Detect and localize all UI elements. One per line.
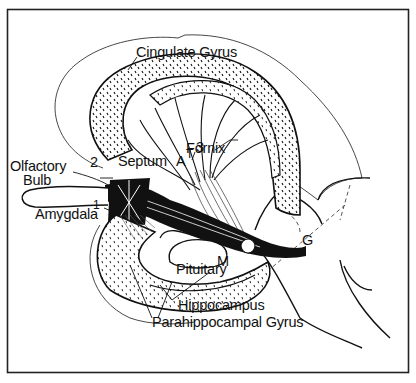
septum-label: Septum	[118, 154, 167, 169]
mammillary-body	[241, 239, 255, 253]
marker-A: A	[176, 154, 185, 169]
hippocampus-label: Hippocampus	[178, 298, 264, 313]
marker-M: M	[217, 254, 229, 269]
marker-3: 3	[196, 140, 204, 155]
marker-T: T	[186, 148, 193, 160]
marker-G: G	[302, 233, 313, 248]
cingulate-gyrus-label: Cingulate Gyrus	[136, 45, 237, 60]
parahippocampal-gyrus-label: Parahippocampal Gyrus	[152, 315, 303, 330]
olfactory-bulb-label-line2: Bulb	[23, 173, 51, 188]
amygdala-label: Amygdala	[35, 207, 98, 222]
marker-1: 1	[93, 199, 99, 211]
marker-2: 2	[90, 155, 98, 170]
